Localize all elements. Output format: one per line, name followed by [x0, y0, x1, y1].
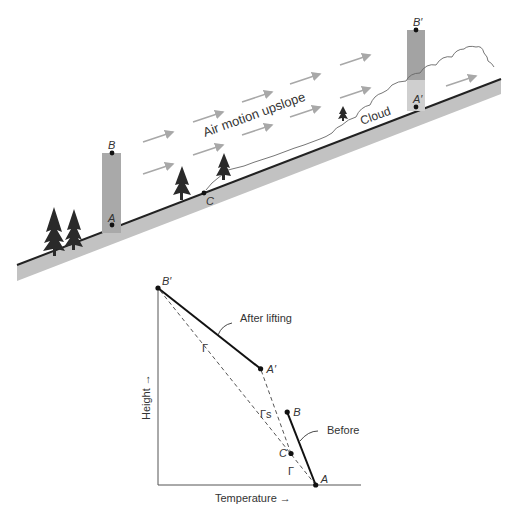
- chart-point-a-prime: [258, 366, 263, 371]
- trees: [43, 106, 348, 256]
- point-B-prime: [414, 28, 419, 33]
- chart-point-label-c: C: [279, 447, 287, 459]
- label-A-prime: A′: [412, 93, 423, 105]
- after-lifting-callout-line: [218, 323, 232, 335]
- tree-icon: [43, 207, 65, 256]
- arrow: [340, 55, 370, 65]
- before-label: Before: [327, 424, 359, 436]
- point-A-prime: [414, 105, 419, 110]
- figure: B A B′ A′ C Air: [0, 0, 518, 517]
- chart-point-label-b: B: [293, 406, 300, 418]
- arrow: [290, 107, 320, 117]
- chart-point-c: [288, 451, 293, 456]
- label-B-prime: B′: [413, 16, 423, 28]
- arrow: [242, 125, 272, 135]
- chart-point-b: [285, 410, 290, 415]
- chart-point-label-a-prime: A′: [266, 363, 277, 375]
- upslope-scene: B A B′ A′ C Air: [17, 16, 501, 281]
- chart-point-label-a: A: [320, 473, 328, 485]
- arrow: [143, 164, 173, 174]
- arrow: [143, 132, 173, 142]
- air-column-after-top: [407, 30, 425, 80]
- series-line-after-lifting: [158, 288, 261, 369]
- chart-point-a: [313, 482, 318, 487]
- tree-icon: [338, 106, 348, 121]
- tree-icon: [173, 166, 191, 200]
- tree-icon: [64, 209, 83, 250]
- gamma-label-upper: Γ: [202, 342, 208, 354]
- label-A: A: [107, 212, 115, 224]
- temperature-height-chart: Height → Temperature → ABCA′B′ After lif…: [140, 275, 361, 504]
- arrow: [446, 76, 476, 86]
- label-B: B: [108, 139, 115, 151]
- point-B: [110, 151, 115, 156]
- gamma-s-label: Γs: [260, 408, 272, 420]
- gamma-label-lower: Γ: [288, 465, 294, 477]
- arrow: [290, 74, 320, 84]
- chart-point-label-b-prime: B′: [162, 275, 172, 287]
- y-axis-label: Height →: [140, 374, 152, 420]
- x-axis-label: Temperature →: [215, 492, 291, 504]
- label-C: C: [206, 195, 214, 207]
- chart-point-b-prime: [155, 285, 160, 290]
- arrow: [193, 145, 223, 155]
- after-lifting-label: After lifting: [240, 312, 292, 324]
- tree-icon: [216, 153, 231, 180]
- before-callout-line: [300, 431, 318, 441]
- arrow: [340, 88, 370, 98]
